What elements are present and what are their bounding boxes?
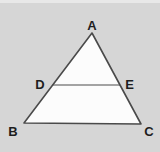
point-label-E: E [125, 77, 134, 92]
vertex-label-C: C [144, 124, 154, 139]
triangle-midsegment-figure: A B C D E [0, 0, 160, 152]
point-label-D: D [35, 77, 44, 92]
vertex-label-B: B [8, 124, 17, 139]
diagram-canvas: A B C D E [0, 0, 160, 152]
vertex-label-A: A [87, 18, 97, 33]
